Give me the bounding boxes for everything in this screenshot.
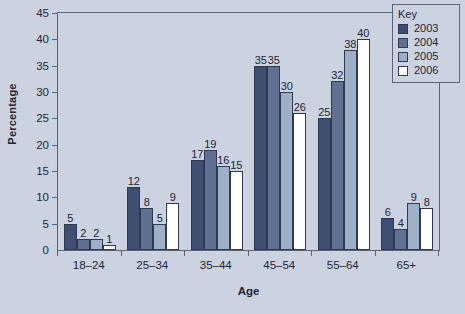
- bar: 16: [217, 166, 230, 250]
- bar-group: 35353026: [254, 13, 306, 250]
- bar-value-label: 38: [344, 39, 356, 50]
- y-axis-tick-mark: [52, 66, 57, 67]
- y-axis-tick-label: 0: [43, 244, 49, 256]
- x-axis-tick-mark: [121, 251, 122, 256]
- bars-area: 5221128591719161535353026253238406498: [58, 13, 439, 250]
- bar: 38: [344, 50, 357, 250]
- bar: 1: [103, 245, 116, 250]
- y-axis-tick-mark: [52, 39, 57, 40]
- legend-title: Key: [398, 8, 455, 21]
- x-axis-tick-mark: [311, 251, 312, 256]
- bar: 5: [64, 224, 77, 250]
- bar: 8: [140, 208, 153, 250]
- x-axis-tick-label: 35–44: [184, 259, 248, 271]
- y-axis-tick-label: 35: [36, 60, 49, 72]
- legend: Key 2003200420052006: [392, 4, 460, 83]
- bar-value-label: 8: [424, 197, 430, 208]
- legend-item-label: 2003: [414, 23, 438, 34]
- bar: 2: [77, 239, 90, 250]
- x-axis-tick-label: 45–54: [248, 259, 312, 271]
- y-axis-tick-mark: [52, 13, 57, 14]
- x-axis-tick-mark: [375, 251, 376, 256]
- legend-item: 2005: [398, 50, 455, 63]
- bar: 35: [267, 66, 280, 250]
- y-axis-tick-mark: [52, 197, 57, 198]
- y-axis-tick-label: 20: [36, 139, 49, 151]
- bar-value-label: 15: [230, 160, 242, 171]
- bar-value-label: 1: [106, 234, 112, 245]
- bar: 40: [357, 39, 370, 250]
- bar-value-label: 6: [385, 207, 391, 218]
- bar: 6: [381, 218, 394, 250]
- bar-value-label: 9: [170, 192, 176, 203]
- bar: 30: [280, 92, 293, 250]
- bar: 17: [191, 160, 204, 250]
- x-axis-tick-mark: [57, 251, 58, 256]
- bar: 26: [293, 113, 306, 250]
- bar-group: 17191615: [191, 13, 243, 250]
- bar: 35: [254, 66, 267, 250]
- bar-value-label: 5: [157, 213, 163, 224]
- y-axis-title: Percentage: [6, 69, 18, 159]
- y-axis-tick-label: 10: [36, 191, 49, 203]
- bar: 5: [153, 224, 166, 250]
- bar-value-label: 35: [255, 55, 267, 66]
- x-axis-tick-label: 18–24: [57, 259, 121, 271]
- y-axis-tick-mark: [52, 145, 57, 146]
- y-axis-tick-mark: [52, 171, 57, 172]
- bar-value-label: 30: [281, 81, 293, 92]
- y-axis-tick-label: 30: [36, 86, 49, 98]
- bar-value-label: 8: [144, 197, 150, 208]
- bar-value-label: 5: [67, 213, 73, 224]
- x-axis-title: Age: [57, 285, 440, 297]
- bar-value-label: 12: [128, 176, 140, 187]
- y-axis-tick-mark: [52, 224, 57, 225]
- bar-value-label: 32: [331, 70, 343, 81]
- bar-value-label: 4: [398, 218, 404, 229]
- x-axis-tick-mark: [438, 251, 439, 256]
- x-axis: 18–2425–3435–4445–5455–6465+: [57, 251, 440, 281]
- legend-item-label: 2004: [414, 37, 438, 48]
- y-axis-tick-label: 25: [36, 112, 49, 124]
- y-axis-tick-label: 15: [36, 165, 49, 177]
- y-axis-tick-mark: [52, 118, 57, 119]
- x-axis-tick-label: 55–64: [311, 259, 375, 271]
- legend-item-label: 2006: [414, 65, 438, 76]
- bar: 32: [331, 81, 344, 250]
- bar: 15: [230, 171, 243, 250]
- y-axis-tick-label: 45: [36, 7, 49, 19]
- y-axis-tick-label: 40: [36, 33, 49, 45]
- bar-value-label: 19: [204, 139, 216, 150]
- legend-item: 2006: [398, 64, 455, 77]
- legend-swatch-icon: [398, 38, 408, 48]
- bar-value-label: 35: [268, 55, 280, 66]
- legend-swatch-icon: [398, 66, 408, 76]
- bar-group: 25323840: [318, 13, 370, 250]
- x-axis-tick-mark: [248, 251, 249, 256]
- bar: 9: [407, 203, 420, 250]
- bar: 25: [318, 118, 331, 250]
- bar-value-label: 17: [191, 149, 203, 160]
- bar: 8: [420, 208, 433, 250]
- legend-item-label: 2005: [414, 51, 438, 62]
- bar-group: 12859: [127, 13, 179, 250]
- bar-value-label: 16: [217, 155, 229, 166]
- legend-item: 2004: [398, 36, 455, 49]
- bar-chart: 051015202530354045 Percentage 5221128591…: [0, 0, 465, 314]
- legend-swatch-icon: [398, 52, 408, 62]
- legend-items: 2003200420052006: [398, 22, 455, 77]
- bar-value-label: 2: [80, 228, 86, 239]
- x-axis-tick-mark: [184, 251, 185, 256]
- bar-group: 5221: [64, 13, 116, 250]
- bar-value-label: 25: [318, 107, 330, 118]
- bar: 4: [394, 229, 407, 250]
- x-axis-tick-label: 65+: [375, 259, 439, 271]
- bar: 12: [127, 187, 140, 250]
- y-axis-tick-mark: [52, 92, 57, 93]
- bar-value-label: 2: [93, 228, 99, 239]
- bar-value-label: 40: [357, 28, 369, 39]
- y-axis-tick-label: 5: [43, 218, 49, 230]
- bar: 9: [166, 203, 179, 250]
- bar: 2: [90, 239, 103, 250]
- bar-value-label: 26: [294, 102, 306, 113]
